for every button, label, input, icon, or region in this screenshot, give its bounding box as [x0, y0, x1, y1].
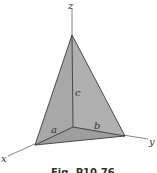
- figure-caption: Fig. P10.76: [51, 167, 115, 173]
- edge-a-label: a: [51, 124, 57, 135]
- y-axis-label: y: [148, 136, 155, 147]
- edge-c-label: c: [75, 87, 81, 98]
- x-axis-label: x: [1, 153, 7, 164]
- tetrahedron-figure: z x y c a b Fig. P10.76: [0, 0, 157, 173]
- z-axis-label: z: [67, 0, 74, 11]
- edge-b-label: b: [94, 120, 100, 131]
